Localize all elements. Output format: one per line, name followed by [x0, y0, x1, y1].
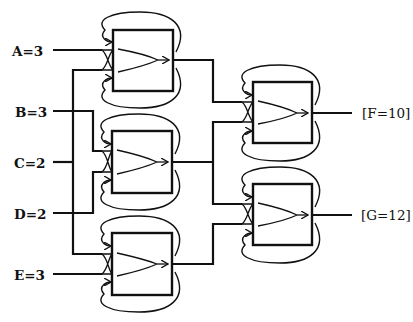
input-label-c: C=2 [14, 155, 45, 171]
input-wires [53, 50, 102, 274]
input-label-d: D=2 [14, 206, 46, 222]
node-box-3 [101, 216, 180, 312]
input-label-b: B=3 [15, 104, 47, 120]
network-diagram: A=3 B=3 C=2 D=2 E=3 [F=10] [G=12] [0, 0, 413, 322]
output-label-g: [G=12] [361, 207, 411, 223]
output-label-f: [F=10] [362, 105, 410, 121]
node-box-4 [242, 65, 320, 161]
node-box-2 [101, 114, 180, 210]
middle-wires [172, 60, 242, 264]
node-box-1 [102, 12, 181, 108]
node-box-5 [242, 167, 320, 263]
input-label-e: E=3 [14, 267, 45, 283]
input-label-a: A=3 [11, 43, 43, 59]
